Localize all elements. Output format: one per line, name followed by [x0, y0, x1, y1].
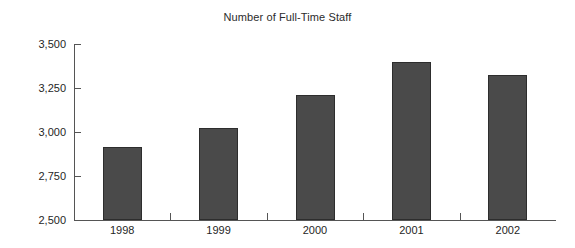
y-tick-label: 2,500: [0, 215, 66, 226]
y-tick-label: 3,000: [0, 127, 66, 138]
x-tick-label: 2002: [478, 224, 538, 236]
x-tick-label: 2001: [381, 224, 441, 236]
bar: [392, 62, 431, 220]
y-tick-label: 3,250: [0, 83, 66, 94]
bar: [296, 95, 335, 220]
bar-chart: Number of Full-Time Staff 2,5002,7503,00…: [0, 0, 575, 248]
x-tick-label: 1999: [189, 224, 249, 236]
y-tick-label: 2,750: [0, 171, 66, 182]
y-tick-mark: [74, 220, 81, 221]
plot-area: [74, 44, 556, 220]
x-tick-label: 1998: [92, 224, 152, 236]
y-tick-label: 3,500: [0, 39, 66, 50]
bar: [103, 147, 142, 220]
x-tick-label: 2000: [285, 224, 345, 236]
bar: [199, 128, 238, 220]
x-axis-line: [74, 220, 556, 221]
bar: [488, 75, 527, 220]
chart-title: Number of Full-Time Staff: [0, 11, 575, 24]
